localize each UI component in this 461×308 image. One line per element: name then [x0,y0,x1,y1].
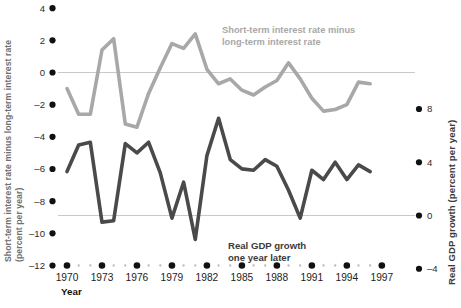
x-tick-dot-minor [229,264,231,266]
x-tick-dot-major [379,262,386,269]
left-tick-dot [49,134,55,140]
right-tick-dot [416,266,422,272]
x-tick-dot-major [64,262,71,269]
x-tick-dot-minor [299,264,301,266]
x-tick-dot-major [204,262,211,269]
x-tick-dot-minor [147,264,149,266]
x-tick-dot-minor [194,264,196,266]
left-tick-dot [49,5,55,11]
left-tick-dot [49,102,55,108]
right-tick-dot [416,159,422,165]
right-tick-dot [416,106,422,112]
left-tick-label: –8 [34,196,45,207]
left-tick-dot [49,198,55,204]
left-tick-label: –12 [29,260,45,271]
x-tick-label: 1991 [301,272,324,283]
x-tick-dot-minor [264,264,266,266]
left-tick-label: –4 [34,131,45,142]
left-tick-label: –2 [34,99,45,110]
x-tick-label: 1982 [196,272,219,283]
left-tick-label: 4 [40,3,46,14]
x-tick-dot-minor [322,264,324,266]
x-tick-dot-minor [252,264,254,266]
annotation-gdp-line1: Real GDP growth [228,240,306,251]
left-axis-title-line1: Short-term interest rate minus long-term… [3,40,13,262]
left-tick-label: 0 [40,67,45,78]
series-line-interest-rate-spread [67,34,370,127]
x-tick-label: 1973 [91,272,114,283]
left-tick-dot [49,262,55,268]
x-tick-dot-minor [369,264,371,266]
x-axis-title: Year [61,286,82,297]
x-tick-label: 1970 [56,272,79,283]
x-tick-dot-minor [357,264,359,266]
left-tick-label: –10 [29,228,45,239]
right-tick-dot [416,212,422,218]
right-axis-title: Real GDP growth (percent per year) [446,120,457,285]
x-tick-dot-major [134,262,141,269]
x-tick-dot-minor [124,264,126,266]
x-tick-dot-minor [334,264,336,266]
x-axis-ticks: 1970197319761979198219851988199119941997 [56,262,394,283]
x-tick-dot-major [344,262,351,269]
left-tick-dot [49,69,55,75]
annotation-gdp-line2: one year later [228,252,291,263]
x-tick-dot-minor [182,264,184,266]
x-tick-dot-major [169,262,176,269]
chart-plot-area: Short-term interest rate minus long-term… [0,0,461,308]
right-tick-label: –4 [427,263,438,274]
right-tick-label: 0 [427,210,432,221]
x-tick-dot-minor [112,264,114,266]
x-tick-dot-major [239,262,246,269]
x-tick-label: 1985 [231,272,254,283]
x-tick-dot-minor [78,264,80,266]
x-tick-label: 1976 [126,272,149,283]
left-tick-dot [49,166,55,172]
x-tick-dot-minor [89,264,91,266]
annotation-spread-line1: Short-term interest rate minus [222,25,355,35]
x-tick-dot-minor [159,264,161,266]
left-tick-label: 2 [40,35,45,46]
right-tick-label: 8 [427,103,432,114]
x-tick-dot-major [274,262,281,269]
x-tick-label: 1988 [266,272,289,283]
annotation-spread-line2: long-term interest rate [222,37,321,47]
right-tick-label: 4 [427,157,433,168]
x-tick-dot-minor [217,264,219,266]
chart-container: Short-term interest rate minus long-term… [0,0,461,308]
right-axis-ticks: 840–4 [416,103,438,274]
x-tick-label: 1997 [370,272,393,283]
x-tick-dot-minor [287,264,289,266]
x-tick-dot-major [309,262,316,269]
left-axis-title-line2: (percent per year) [14,188,24,262]
left-tick-label: –6 [34,163,45,174]
series-line-real-gdp-growth [67,118,370,239]
x-tick-label: 1979 [161,272,184,283]
left-tick-dot [49,230,55,236]
x-tick-label: 1994 [336,272,359,283]
left-tick-dot [49,37,55,43]
left-axis-ticks: 420–2–4–6–8–10–12 [29,3,56,271]
x-tick-dot-major [99,262,106,269]
